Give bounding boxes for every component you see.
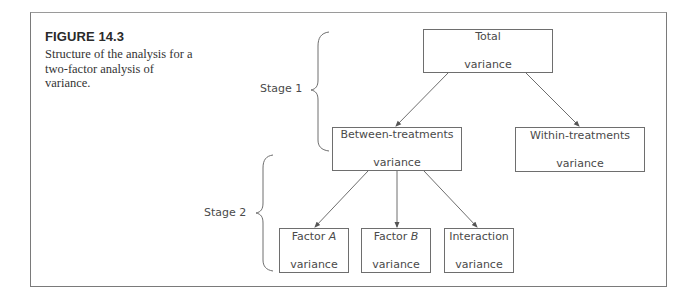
node-factor-b-letter: B (411, 230, 419, 243)
node-interaction-line2: variance (449, 258, 509, 272)
node-factor-a-letter: A (329, 230, 337, 243)
node-between-line1: Between-treatments (340, 128, 453, 142)
stage-2-label: Stage 2 (204, 206, 246, 219)
node-factor-a-prefix: Factor (292, 230, 329, 243)
node-total-line1: Total (464, 30, 511, 44)
node-factor-b-prefix: Factor (374, 230, 411, 243)
node-total-variance: Total variance (423, 29, 553, 73)
node-factor-b-line2: variance (372, 258, 419, 272)
node-between-line2: variance (340, 156, 453, 170)
node-interaction-line1: Interaction (449, 230, 509, 244)
stage-1-label: Stage 1 (260, 82, 302, 95)
node-between-treatments-variance: Between-treatments variance (332, 127, 462, 171)
node-total-line2: variance (464, 58, 511, 72)
node-within-line1: Within-treatments (530, 129, 630, 143)
node-within-treatments-variance: Within-treatments variance (515, 127, 645, 172)
node-interaction-variance: Interaction variance (444, 228, 514, 273)
node-factor-b-variance: Factor B variance (361, 228, 431, 273)
node-factor-a-variance: Factor A variance (279, 228, 349, 273)
stage-2-brace (256, 155, 273, 271)
node-factor-a-line2: variance (290, 258, 337, 272)
node-within-line2: variance (530, 157, 630, 171)
stage-1-brace (311, 32, 329, 151)
